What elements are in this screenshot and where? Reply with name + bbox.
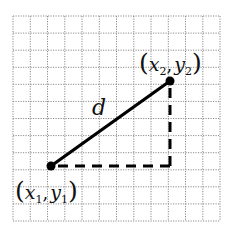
x-var: x — [25, 181, 36, 203]
distance-diagram: (x2,y2) (x1,y1) d — [0, 0, 232, 230]
open-paren: ( — [15, 176, 25, 205]
point-2-dot — [166, 77, 175, 86]
point-1-label: (x1,y1) — [15, 178, 78, 205]
y-subscript: 1 — [61, 193, 68, 206]
comma: , — [42, 182, 48, 203]
distance-segment — [51, 81, 170, 166]
close-paren: ) — [192, 48, 202, 77]
point-2-label: (x2,y2) — [139, 50, 202, 77]
y-subscript: 2 — [185, 65, 192, 78]
comma: , — [166, 54, 172, 75]
y-var: y — [174, 53, 185, 75]
y-var: y — [50, 181, 61, 203]
open-paren: ( — [139, 48, 149, 77]
close-paren: ) — [68, 176, 78, 205]
right-triangle-legs — [58, 88, 170, 166]
point-1-dot — [47, 162, 56, 171]
distance-label: d — [92, 97, 106, 119]
x-var: x — [149, 53, 160, 75]
